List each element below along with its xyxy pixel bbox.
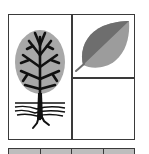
bottom-row: [8, 148, 135, 154]
tree-with-roots-icon: [9, 15, 71, 139]
bottom-cell: [104, 149, 135, 154]
empty-panel: [73, 79, 134, 139]
bottom-cell: [9, 149, 41, 154]
bottom-cell: [72, 149, 104, 154]
bottom-cell: [41, 149, 73, 154]
leaf-icon: [73, 15, 135, 77]
